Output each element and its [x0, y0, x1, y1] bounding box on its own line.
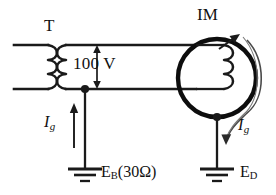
current-label-left: Ig: [44, 114, 55, 132]
ground-symbol-left: [68, 169, 102, 181]
ground-label-left-symbol: E: [101, 163, 111, 180]
transformer-label: T: [44, 17, 54, 34]
ground-label-right-subscript: D: [250, 170, 258, 181]
motor-circle: [178, 39, 256, 117]
current-label-right: Ig: [238, 117, 249, 135]
voltage-value-label: 100 V: [73, 55, 116, 72]
ground-symbol-right: [200, 169, 234, 181]
ground-label-left-subscript: B: [111, 170, 118, 181]
ground-label-right-symbol: E: [240, 163, 250, 180]
transformer-secondary: [57, 45, 66, 89]
current-arrow-left: [70, 103, 78, 148]
ground-label-left-resistance: (30Ω): [118, 163, 157, 180]
circuit-diagram-canvas: T IM 100 V Ig Ig EB(30Ω) ED: [0, 0, 276, 195]
transformer-primary: [14, 45, 57, 89]
motor-winding: [196, 45, 233, 89]
motor-label: IM: [197, 6, 218, 23]
ground-label-right: ED: [240, 164, 257, 182]
current-label-right-subscript: g: [243, 123, 249, 135]
current-label-left-subscript: g: [49, 120, 55, 132]
ground-label-left: EB(30Ω): [101, 164, 156, 182]
